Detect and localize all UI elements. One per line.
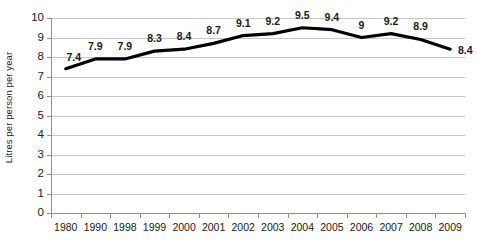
data-point-label: 9.2 <box>261 16 285 27</box>
x-tick-mark <box>169 213 170 218</box>
data-point-label: 9.2 <box>379 16 403 27</box>
x-tick-label: 2004 <box>288 222 318 233</box>
x-tick-mark <box>347 213 348 218</box>
x-tick-mark <box>258 213 259 218</box>
x-tick-label: 2008 <box>406 222 436 233</box>
x-tick-label: 2006 <box>347 222 377 233</box>
x-tick-mark <box>317 213 318 218</box>
data-point-label: 8.3 <box>143 33 167 44</box>
x-tick-label: 1998 <box>110 222 140 233</box>
x-tick-label: 1990 <box>81 222 111 233</box>
y-tick-label: 2 <box>14 168 44 180</box>
y-tick-label: 1 <box>14 188 44 200</box>
data-point-label: 7.9 <box>113 41 137 52</box>
y-tick-label: 4 <box>14 129 44 141</box>
y-tick-label: 3 <box>14 149 44 161</box>
x-tick-label: 2003 <box>258 222 288 233</box>
data-point-label: 9.4 <box>320 12 344 23</box>
data-point-label: 9 <box>350 20 374 31</box>
y-tick-label: 9 <box>14 32 44 44</box>
y-axis-line <box>51 18 52 214</box>
x-tick-label: 2007 <box>376 222 406 233</box>
y-axis-title-text: Litres per person per year <box>4 52 15 163</box>
x-tick-mark <box>435 213 436 218</box>
y-tick-label: 5 <box>14 110 44 122</box>
data-point-label: 7.9 <box>83 41 107 52</box>
y-tick-label: 10 <box>14 12 44 24</box>
x-tick-label: 2002 <box>228 222 258 233</box>
x-tick-mark <box>465 213 466 218</box>
x-tick-mark <box>140 213 141 218</box>
x-tick-label: 2005 <box>317 222 347 233</box>
data-point-label: 8.9 <box>409 21 433 32</box>
data-point-label: 9.5 <box>290 10 314 21</box>
y-axis-title: Litres per person per year <box>0 0 18 215</box>
x-tick-mark <box>376 213 377 218</box>
y-tick-label: 0 <box>14 207 44 219</box>
data-point-label: 7.4 <box>62 52 86 63</box>
y-tick-label: 8 <box>14 51 44 63</box>
x-tick-label: 1999 <box>140 222 170 233</box>
data-point-label: 8.4 <box>453 45 477 56</box>
x-tick-mark <box>288 213 289 218</box>
x-tick-mark <box>81 213 82 218</box>
x-tick-label: 2001 <box>199 222 229 233</box>
x-tick-mark <box>110 213 111 218</box>
x-tick-mark <box>199 213 200 218</box>
x-tick-label: 1980 <box>51 222 81 233</box>
data-point-label: 9.1 <box>231 18 255 29</box>
y-tick-label: 7 <box>14 71 44 83</box>
line-chart: Litres per person per year 012345678910 … <box>0 0 477 245</box>
x-tick-mark <box>406 213 407 218</box>
y-tick-label: 6 <box>14 90 44 102</box>
x-tick-label: 2000 <box>169 222 199 233</box>
data-point-label: 8.7 <box>202 25 226 36</box>
x-tick-mark <box>51 213 52 218</box>
data-point-label: 8.4 <box>172 31 196 42</box>
x-tick-label: 2009 <box>435 222 465 233</box>
x-tick-mark <box>228 213 229 218</box>
